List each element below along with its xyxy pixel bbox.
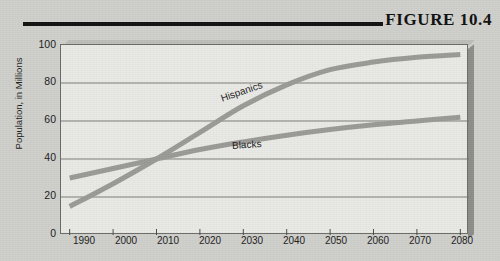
y-tick-0: 0: [30, 228, 56, 239]
header-rule: [23, 22, 383, 26]
x-tick-2010: 2010: [148, 236, 188, 246]
chart-frame: [60, 44, 472, 236]
x-tick-2000: 2000: [106, 236, 146, 246]
x-tick-2030: 2030: [232, 236, 272, 246]
x-tick-2080: 2080: [442, 236, 482, 246]
series-curves: [70, 55, 461, 207]
x-tick-2070: 2070: [400, 236, 440, 246]
y-tick-100: 100: [30, 39, 56, 50]
chart-svg: [61, 45, 469, 235]
figure-title: FIGURE 10.4: [385, 10, 492, 30]
plot-area: [60, 44, 468, 234]
y-tick-40: 40: [30, 152, 56, 163]
y-tick-20: 20: [30, 190, 56, 201]
x-axis-tick-labels: 1990 2000 2010 2020 2030 2040 2050 2060 …: [60, 236, 472, 256]
x-tick-2060: 2060: [358, 236, 398, 246]
x-tick-2020: 2020: [190, 236, 230, 246]
x-tick-2050: 2050: [316, 236, 356, 246]
y-axis-title: Population, in Millions: [13, 39, 24, 169]
y-tick-80: 80: [30, 76, 56, 87]
y-axis-tick-labels: 100 80 60 40 20 0: [26, 44, 56, 236]
series-label-blacks: Blacks: [232, 138, 262, 151]
series-line-hispanics: [70, 55, 461, 207]
series-line-blacks: [70, 117, 461, 178]
figure-page: FIGURE 10.4 Population, in Millions 100 …: [0, 0, 500, 261]
x-tick-1990: 1990: [64, 236, 104, 246]
x-tick-2040: 2040: [274, 236, 314, 246]
y-tick-60: 60: [30, 114, 56, 125]
